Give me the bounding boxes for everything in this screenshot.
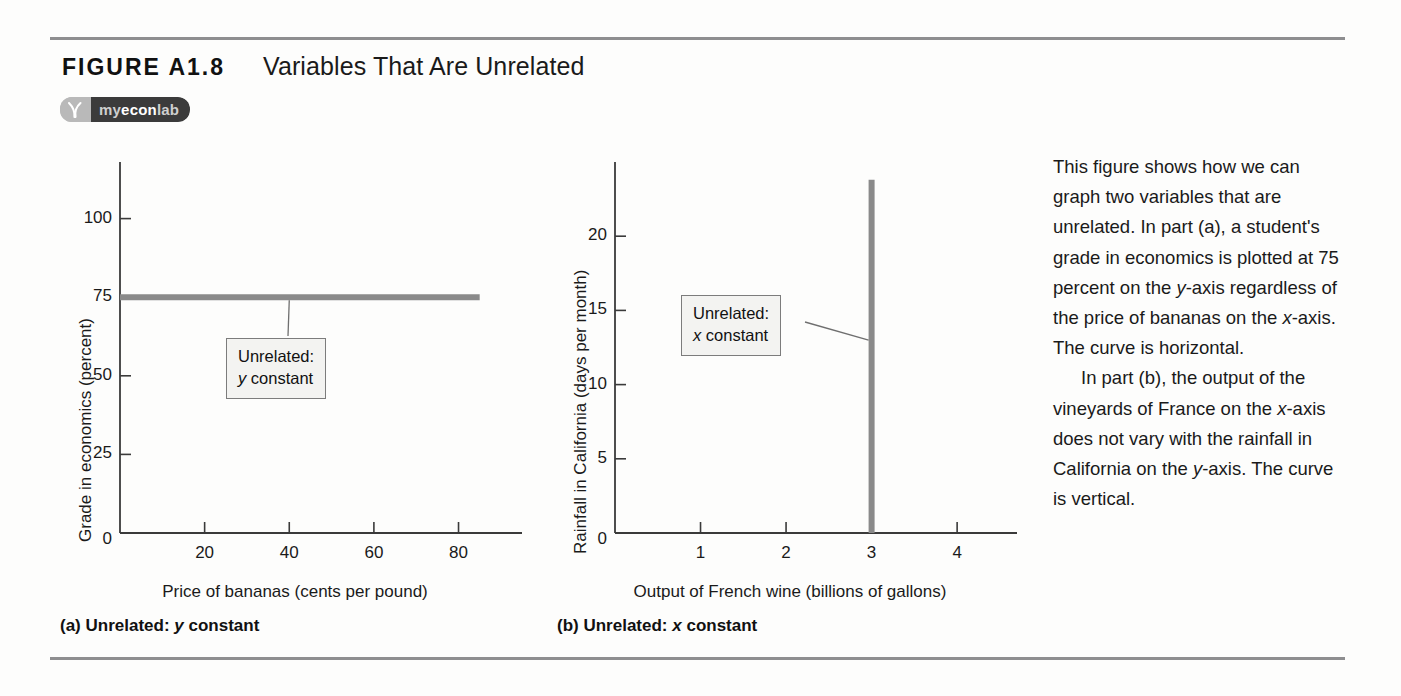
y-tick-label: 20 bbox=[563, 225, 607, 245]
figure-top-rule bbox=[50, 37, 1345, 40]
x-tick-label: 40 bbox=[269, 543, 309, 563]
chart-a-y-axis-title: Grade in economics (percent) bbox=[76, 318, 96, 542]
figure-container: FIGURE A1.8 Variables That Are Unrelated… bbox=[0, 0, 1401, 696]
y-tick-label: 75 bbox=[68, 286, 112, 306]
p1-variable-1: y bbox=[1176, 277, 1185, 298]
badge-mid: econ bbox=[121, 101, 157, 118]
chart-a-leader-line bbox=[288, 300, 289, 336]
chart-a-caption-variable: y bbox=[174, 616, 183, 635]
badge-prefix: my bbox=[99, 101, 121, 118]
myeconlab-logo-icon bbox=[60, 97, 91, 122]
chart-a-caption-text: (a) Unrelated: bbox=[60, 616, 174, 635]
y-tick-label: 10 bbox=[563, 374, 607, 394]
x-tick-label: 80 bbox=[439, 543, 479, 563]
y-tick-label: 25 bbox=[68, 443, 112, 463]
chart-panel-b: Rainfall in California (days per month) … bbox=[555, 150, 1025, 620]
p1-variable-2: x bbox=[1282, 307, 1291, 328]
p2-part-a: In part (b), the output of the vineyards… bbox=[1053, 367, 1305, 418]
chart-b-caption-variable: x bbox=[672, 616, 681, 635]
figure-bottom-rule bbox=[50, 657, 1345, 660]
p2-variable-2: y bbox=[1193, 458, 1202, 479]
figure-explanation: This figure shows how we can graph two v… bbox=[1053, 152, 1343, 514]
chart-b-caption-text: (b) Unrelated: bbox=[557, 616, 672, 635]
badge-suffix: lab bbox=[157, 101, 179, 118]
chart-b-x-axis-title: Output of French wine (billions of gallo… bbox=[555, 582, 1025, 602]
chart-a-annotation-line2: constant bbox=[246, 369, 313, 387]
explanation-paragraph-2: In part (b), the output of the vineyards… bbox=[1053, 363, 1343, 514]
x-tick-label: 3 bbox=[852, 543, 892, 563]
chart-a-annotation-line1: Unrelated: bbox=[238, 347, 314, 365]
y-tick-label: 15 bbox=[563, 299, 607, 319]
chart-a-x-axis-title: Price of bananas (cents per pound) bbox=[60, 582, 530, 602]
chart-b-caption: (b) Unrelated: x constant bbox=[557, 616, 757, 636]
chart-b-leader-line bbox=[805, 322, 869, 340]
x-tick-label: 1 bbox=[681, 543, 721, 563]
y-tick-label: 5 bbox=[563, 448, 607, 468]
chart-b-annotation-line1: Unrelated: bbox=[693, 304, 769, 322]
x-tick-label: 60 bbox=[354, 543, 394, 563]
chart-a-caption-tail: constant bbox=[184, 616, 260, 635]
chart-panel-a: Grade in economics (percent) Price of ba… bbox=[60, 150, 530, 620]
chart-b-annotation: Unrelated: x constant bbox=[681, 295, 781, 356]
chart-b-annotation-line2: constant bbox=[701, 326, 768, 344]
y-tick-label: 100 bbox=[68, 208, 112, 228]
chart-a-annotation-variable: y bbox=[238, 369, 246, 387]
myeconlab-badge[interactable]: myeconlab bbox=[60, 97, 190, 122]
y-axis-origin-label: 0 bbox=[563, 529, 607, 549]
chart-b-caption-tail: constant bbox=[682, 616, 758, 635]
y-axis-origin-label: 0 bbox=[68, 529, 112, 549]
figure-header: FIGURE A1.8 Variables That Are Unrelated bbox=[62, 52, 962, 88]
explanation-paragraph-1: This figure shows how we can graph two v… bbox=[1053, 152, 1343, 363]
myeconlab-badge-text: myeconlab bbox=[91, 97, 190, 122]
figure-number: FIGURE A1.8 bbox=[62, 54, 225, 81]
chart-a-caption: (a) Unrelated: y constant bbox=[60, 616, 259, 636]
chart-a-annotation: Unrelated: y constant bbox=[226, 338, 326, 399]
figure-title: Variables That Are Unrelated bbox=[263, 52, 585, 81]
x-tick-label: 2 bbox=[766, 543, 806, 563]
x-tick-label: 20 bbox=[185, 543, 225, 563]
x-tick-label: 4 bbox=[937, 543, 977, 563]
y-tick-label: 50 bbox=[68, 365, 112, 385]
chart-b-annotation-variable: x bbox=[693, 326, 701, 344]
